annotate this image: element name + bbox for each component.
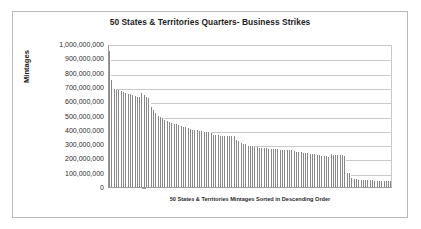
y-axis-tick-label: 1,000,000,000 (38, 41, 104, 49)
chart-title: 50 States & Territories Quarters- Busine… (12, 17, 408, 27)
y-axis-tick-label: 400,000,000 (38, 127, 104, 135)
y-axis-tick-label: 700,000,000 (38, 84, 104, 92)
y-axis-tick-label: 200,000,000 (38, 155, 104, 163)
y-axis-tick-label: 0 (38, 184, 104, 192)
y-axis-tick-label: 100,000,000 (38, 170, 104, 178)
chart-figure: 50 States & Territories Quarters- Busine… (0, 0, 421, 229)
bar-series (109, 46, 391, 187)
y-axis-tick-label: 800,000,000 (38, 70, 104, 78)
plot-area (108, 45, 392, 188)
y-axis-tick-label: 900,000,000 (38, 55, 104, 63)
y-axis-tick-label: 600,000,000 (38, 98, 104, 106)
y-axis-tick-label: 300,000,000 (38, 141, 104, 149)
y-axis-tick-label: 500,000,000 (38, 113, 104, 121)
y-axis-tick-mark (142, 188, 146, 189)
y-axis-tick-labels: 1,000,000,000900,000,000800,000,000700,0… (38, 40, 104, 193)
x-axis-title: 50 States & Territories Mintages Sorted … (108, 196, 392, 202)
bar (390, 181, 392, 187)
y-axis-title: Mintages (22, 50, 31, 83)
